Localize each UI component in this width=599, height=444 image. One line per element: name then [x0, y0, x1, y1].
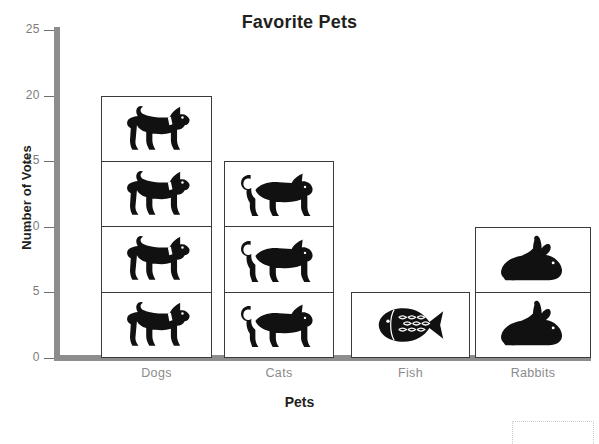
y-tick-label: 25 — [0, 22, 40, 36]
chart-title: Favorite Pets — [0, 12, 599, 33]
bar-cell-cat-icon — [225, 227, 333, 292]
pictograph-bar-chart: Favorite Pets 0510152025 Number of Votes… — [0, 0, 599, 444]
cat-icon — [239, 299, 319, 351]
y-tick-mark — [44, 358, 54, 359]
bar-cell-rabbit-icon — [476, 293, 590, 357]
bar-cell-rabbit-icon — [476, 228, 590, 293]
x-label-cats: Cats — [224, 366, 334, 380]
x-label-dogs: Dogs — [101, 366, 212, 380]
y-axis-line — [54, 27, 60, 361]
x-label-fish: Fish — [351, 366, 470, 380]
rabbit-icon — [497, 299, 569, 351]
y-axis-title: Number of Votes — [19, 118, 34, 278]
y-tick-label: 0 — [0, 350, 40, 364]
y-tick-label: 20 — [0, 88, 40, 102]
dog-icon — [118, 232, 196, 286]
bar-rabbits[interactable] — [475, 227, 591, 358]
page-bottom-cutoff-text — [0, 432, 599, 444]
rabbit-icon — [497, 234, 569, 286]
bar-fish[interactable] — [351, 292, 470, 358]
y-tick-mark — [44, 227, 54, 228]
y-tick-label: 5 — [0, 284, 40, 298]
bar-dogs[interactable] — [101, 96, 212, 358]
bar-cell-dog-icon — [102, 227, 211, 292]
bar-cell-dog-icon — [102, 162, 211, 227]
fish-icon — [372, 302, 450, 348]
bar-cell-cat-icon — [225, 162, 333, 227]
y-tick-mark — [44, 292, 54, 293]
bar-cats[interactable] — [224, 161, 334, 358]
bar-cell-cat-icon — [225, 293, 333, 357]
bar-cell-fish-icon — [352, 293, 469, 357]
cat-icon — [239, 168, 319, 220]
bar-cell-dog-icon — [102, 97, 211, 162]
y-tick-mark — [44, 30, 54, 31]
cat-icon — [239, 234, 319, 286]
dog-icon — [118, 102, 196, 156]
bar-cell-dog-icon — [102, 293, 211, 357]
x-label-rabbits: Rabbits — [475, 366, 591, 380]
y-tick-mark — [44, 96, 54, 97]
x-axis-title: Pets — [0, 394, 599, 410]
dog-icon — [118, 167, 196, 221]
dog-icon — [118, 298, 196, 352]
y-tick-mark — [44, 161, 54, 162]
